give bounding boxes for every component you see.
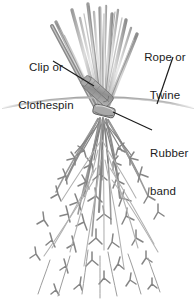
label-rubber-band: Rubber band bbox=[150, 122, 196, 222]
label-clip-line1: Clip or bbox=[8, 61, 84, 74]
herb-drying-diagram: Clip or Clothespin Rope or Twine Rubber … bbox=[0, 0, 196, 304]
label-rubber-line2: band bbox=[150, 185, 196, 198]
label-rope-line2: Twine bbox=[136, 89, 194, 102]
label-clip-or-clothespin: Clip or Clothespin bbox=[8, 36, 84, 136]
rubber-band bbox=[92, 103, 116, 118]
label-rubber-line1: Rubber bbox=[150, 147, 196, 160]
hanging-foliage bbox=[30, 118, 164, 298]
label-clip-line2: Clothespin bbox=[8, 99, 84, 112]
label-rope-or-twine: Rope or Twine bbox=[136, 26, 194, 126]
label-rope-line1: Rope or bbox=[136, 51, 194, 64]
